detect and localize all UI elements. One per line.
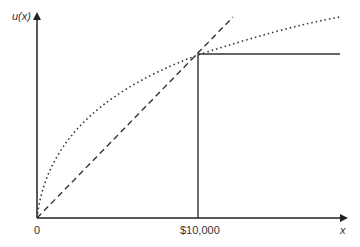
linear-utility-line xyxy=(37,17,233,218)
utility-diagram xyxy=(0,0,360,247)
step-utility-line xyxy=(198,54,340,218)
x-axis-label: x xyxy=(340,224,346,236)
concave-utility-curve xyxy=(37,17,340,218)
threshold-label: $10,000 xyxy=(180,224,220,236)
y-axis-label: u(x) xyxy=(12,10,31,22)
origin-label: 0 xyxy=(34,224,40,236)
